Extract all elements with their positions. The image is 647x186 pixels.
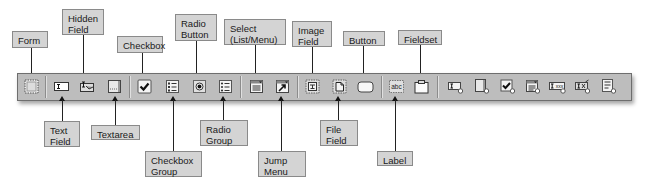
toolbar-button-spry-password[interactable]: xxx: [549, 79, 566, 94]
callout-label: Label: [377, 151, 413, 166]
toolbar-button-label[interactable]: abc: [389, 79, 404, 94]
toolbar-button-spry-select[interactable]: [525, 79, 540, 94]
callout-checkbox-group: Checkbox Group: [145, 151, 202, 177]
toolbar-button-fieldset[interactable]: [414, 79, 429, 94]
image-field-icon: [305, 79, 320, 94]
svg-text:abc: abc: [391, 83, 402, 90]
toolbar-button-spry-checkbox[interactable]: [500, 79, 515, 94]
leader-line-jump-menu: [281, 100, 282, 152]
svg-text:xxx: xxx: [556, 83, 564, 89]
toolbar-button-text-field[interactable]: [54, 79, 69, 94]
select-list-icon: [249, 79, 264, 94]
toolbar-separator: [129, 76, 131, 98]
callout-radio-group: Radio Group: [200, 120, 248, 146]
toolbar-button-select[interactable]: [249, 79, 264, 94]
toolbar-button-spry-text-field[interactable]: [448, 79, 463, 94]
spry-validation-textarea-icon: [474, 79, 489, 94]
callout-fieldset: Fieldset: [398, 30, 442, 45]
callout-text-field: Text Field: [44, 121, 80, 147]
checkbox-icon: [137, 79, 152, 94]
toolbar-separator: [437, 76, 439, 98]
leader-line-file-field: [338, 100, 339, 121]
spry-validation-password-icon: xxx: [549, 79, 566, 94]
toolbar-button-button[interactable]: [357, 79, 374, 94]
leader-line-text-field: [62, 100, 63, 122]
toolbar-separator: [381, 76, 383, 98]
callout-button: Button: [343, 31, 385, 46]
leader-line-checkbox-group: [173, 100, 174, 152]
callout-hidden-field: Hidden Field: [62, 9, 104, 35]
callout-checkbox: Checkbox: [117, 36, 163, 53]
file-field-icon: [332, 79, 347, 94]
leader-line-form: [31, 48, 32, 76]
jump-menu-icon: [275, 79, 290, 94]
text-field-icon: [54, 79, 69, 94]
toolbar-separator: [45, 76, 47, 98]
toolbar-button-spry-textarea[interactable]: [474, 79, 489, 94]
label-icon: abc: [389, 79, 404, 94]
callout-file-field: File Field: [320, 120, 358, 146]
toolbar-button-file-field[interactable]: [332, 79, 347, 94]
toolbar-button-spry-radio-group[interactable]: [601, 79, 616, 94]
toolbar-button-image-field[interactable]: [305, 79, 320, 94]
spry-validation-radio-group-icon: [601, 79, 616, 94]
checkbox-group-icon: [165, 79, 180, 94]
leader-line-radio-group: [223, 100, 224, 121]
toolbar-button-textarea[interactable]: [107, 79, 122, 94]
toolbar-button-spry-confirm[interactable]: [575, 79, 590, 94]
leader-line-textarea: [115, 100, 116, 126]
toolbar-button-hidden-field[interactable]: [80, 79, 95, 94]
textarea-icon: [107, 79, 122, 94]
toolbar-button-jump-menu[interactable]: [275, 79, 290, 94]
callout-radio-button: Radio Button: [175, 14, 217, 41]
callout-select: Select (List/Menu): [224, 19, 286, 45]
toolbar-button-checkbox-group[interactable]: [165, 79, 180, 94]
toolbar-separator: [240, 76, 242, 98]
toolbar-separator: [297, 76, 299, 98]
callout-textarea: Textarea: [91, 125, 140, 140]
toolbar-button-form[interactable]: [24, 79, 39, 94]
spry-validation-confirm-icon: [575, 79, 590, 94]
button-icon: [357, 79, 374, 94]
fieldset-icon: [414, 79, 429, 94]
toolbar-button-radio-group[interactable]: [218, 79, 233, 94]
spry-validation-checkbox-icon: [500, 79, 515, 94]
forms-insert-toolbar: abc xxx: [17, 73, 632, 101]
callout-jump-menu: Jump Menu: [258, 151, 306, 177]
hidden-field-icon: [80, 79, 95, 94]
leader-line-label: [395, 100, 396, 152]
toolbar-button-radio-button[interactable]: [192, 79, 207, 94]
form-icon: [24, 79, 39, 94]
radio-button-icon: [192, 79, 207, 94]
spry-validation-text-field-icon: [448, 79, 463, 94]
radio-group-icon: [218, 79, 233, 94]
spry-validation-select-icon: [525, 79, 540, 94]
callout-image-field: Image Field: [292, 21, 332, 47]
callout-form: Form: [12, 31, 48, 48]
toolbar-button-checkbox[interactable]: [137, 79, 152, 94]
